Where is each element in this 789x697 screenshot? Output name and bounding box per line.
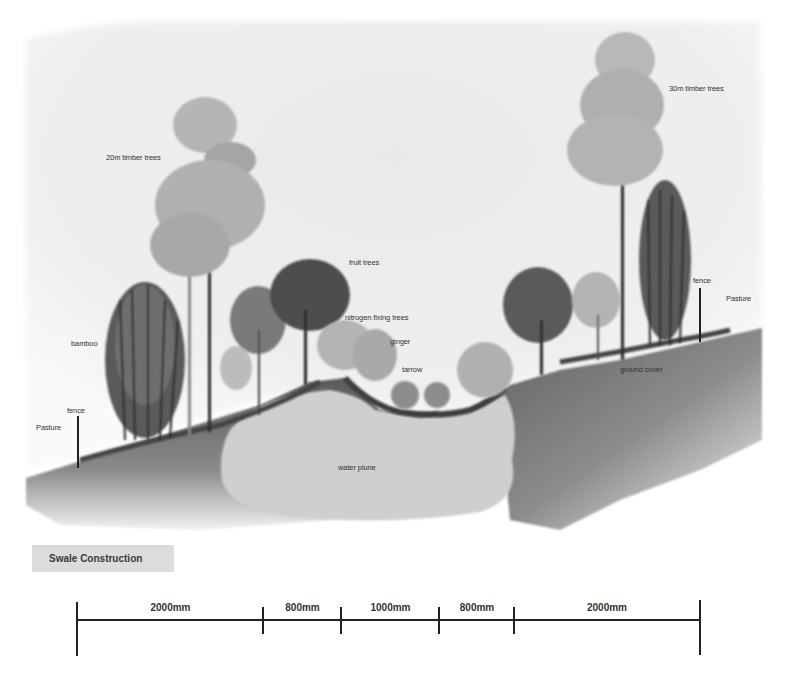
label-water-plume: water plune [338,463,376,472]
scale-bar-line [77,619,701,621]
scale-segment-label: 2000mm [515,602,699,613]
scale-segment-label: 2000mm [78,602,263,613]
label-tarrow: tarrow [402,365,422,374]
scale-segment-label: 1000mm [342,602,439,613]
fence-post-right [699,288,701,342]
label-bamboo: bamboo [71,339,98,348]
label-20m-timber-trees: 20m timber trees [106,153,161,162]
label-ground-cover: ground cover [620,365,663,374]
label-fence-left: fence [67,406,85,415]
label-ginger: ginger [390,337,410,346]
label-nitrogen-fixing-trees: nitrogen fixing trees [345,313,408,322]
label-pasture-right: Pasture [726,294,751,303]
fence-post-left [77,416,79,468]
label-30m-timber-trees: 30m timber trees [669,84,724,93]
label-pasture-left: Pasture [36,423,61,432]
diagram-title-text: Swale Construction [49,553,142,564]
scale-bar-end-right [699,600,701,655]
scale-segment-label: 800mm [264,602,341,613]
label-fruit-trees: fruit trees [349,258,379,267]
diagram-title: Swale Construction [32,545,174,572]
label-fence-right: fence [693,276,711,285]
scale-segment-label: 800mm [440,602,514,613]
